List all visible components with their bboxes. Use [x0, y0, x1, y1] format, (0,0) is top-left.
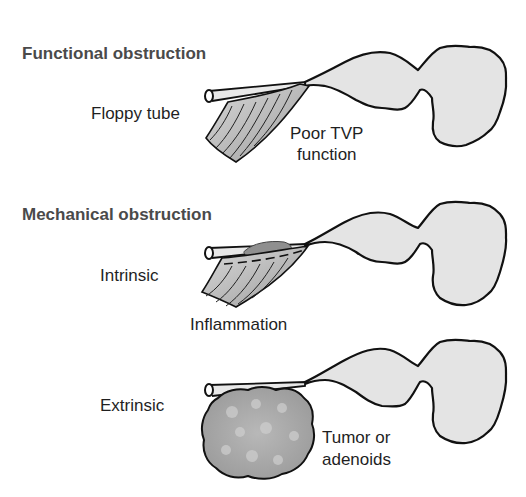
tube-opening — [205, 384, 213, 396]
label-poor-tvp-line2: function — [297, 145, 357, 165]
label-tumor-line1: Tumor or — [322, 428, 390, 448]
label-poor-tvp-line1: Poor TVP — [290, 124, 363, 144]
label-intrinsic: Intrinsic — [100, 266, 159, 286]
label-extrinsic: Extrinsic — [100, 396, 164, 416]
label-inflammation: Inflammation — [190, 315, 287, 335]
eustachian-tube-diagram — [0, 0, 526, 497]
intrinsic-obstruction-figure — [202, 202, 506, 307]
panel-heading-mechanical: Mechanical obstruction — [22, 205, 212, 225]
label-tumor-line2: adenoids — [322, 450, 391, 470]
label-floppy-tube: Floppy tube — [91, 104, 180, 124]
middle-ear-mastoid-shape — [305, 202, 506, 306]
panel-heading-functional: Functional obstruction — [22, 44, 206, 64]
tube-opening — [205, 90, 213, 102]
tube-opening — [205, 247, 213, 259]
